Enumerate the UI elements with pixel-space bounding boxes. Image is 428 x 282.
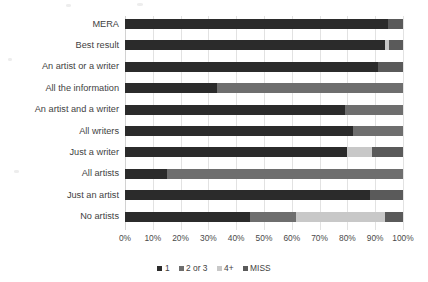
scan-artifact [137, 3, 143, 6]
bar-row [125, 62, 403, 72]
bar-segment-2-or-3 [353, 126, 403, 136]
bar-row [125, 190, 403, 200]
bar-segment-miss [385, 212, 403, 222]
category-label: MERA [0, 19, 119, 30]
bar-row [125, 147, 403, 157]
bar-segment-2-or-3 [250, 212, 296, 222]
legend-label: 4+ [224, 262, 234, 274]
bar-row [125, 169, 403, 179]
legend-swatch-icon [217, 266, 222, 271]
legend-swatch-icon [157, 266, 162, 271]
category-axis: MERABest resultAn artist or a writerAll … [0, 16, 119, 230]
legend-label: 1 [165, 262, 170, 274]
bar-segment-miss [370, 190, 403, 200]
bar-row [125, 105, 403, 115]
bar-segment-miss [378, 62, 403, 72]
bar-segment-miss [372, 147, 403, 157]
legend-item-2-or-3[interactable]: 2 or 3 [179, 262, 208, 274]
bar-segment-2-or-3 [345, 105, 403, 115]
category-label: Just an artist [0, 190, 119, 201]
bar-segment-1 [125, 62, 378, 72]
stacked-bar-chart: MERABest resultAn artist or a writerAll … [0, 0, 428, 282]
bar-segment-1 [125, 126, 353, 136]
category-label: All writers [0, 126, 119, 137]
bar-segment-2-or-3 [217, 83, 403, 93]
bar-segment-2-or-3 [167, 169, 403, 179]
bar-row [125, 212, 403, 222]
bar-segment-1 [125, 190, 370, 200]
legend-swatch-icon [179, 266, 184, 271]
bar-segment-1 [125, 40, 385, 50]
plot-area [125, 16, 403, 230]
bar-segment-1 [125, 105, 345, 115]
legend-item-1[interactable]: 1 [157, 262, 169, 274]
bar-segment-1 [125, 19, 388, 29]
scan-artifact [66, 4, 71, 7]
category-label: All the information [0, 83, 119, 94]
legend-label: 2 or 3 [186, 262, 207, 274]
bar-row [125, 83, 403, 93]
bar-row [125, 126, 403, 136]
category-label: An artist or a writer [0, 61, 119, 72]
bar-segment-1 [125, 169, 167, 179]
bar-row [125, 40, 403, 50]
bar-segment-miss [389, 40, 403, 50]
legend-item-miss[interactable]: MISS [243, 262, 271, 274]
gridline-100pct [403, 16, 404, 230]
bar-segment-1 [125, 212, 250, 222]
category-label: Best result [0, 40, 119, 51]
category-label: All artists [0, 168, 119, 179]
x-axis-tick-label: 100% [383, 232, 423, 244]
chart-legend: 12 or 34+MISS [0, 260, 428, 276]
legend-label: MISS [250, 262, 270, 274]
category-label: Just a writer [0, 147, 119, 158]
bar-segment-1 [125, 83, 217, 93]
bar-segment-4+ [296, 212, 385, 222]
bar-segment-miss [388, 19, 403, 29]
category-label: No artists [0, 211, 119, 222]
legend-item-4+[interactable]: 4+ [217, 262, 234, 274]
legend-swatch-icon [243, 266, 248, 271]
bar-segment-4+ [347, 147, 372, 157]
value-axis: 0%10%20%30%40%50%60%70%80%90%100% [0, 232, 428, 246]
bar-segment-1 [125, 147, 347, 157]
category-label: An artist and a writer [0, 104, 119, 115]
bar-row [125, 19, 403, 29]
